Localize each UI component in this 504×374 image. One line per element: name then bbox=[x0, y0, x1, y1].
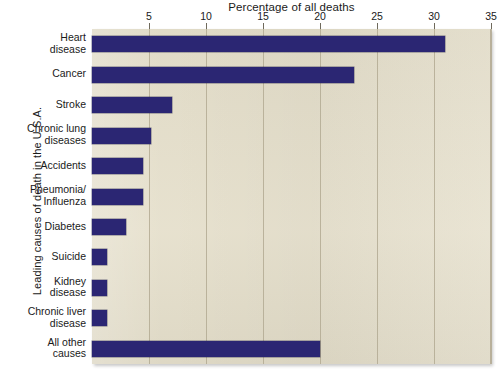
tick-mark-35 bbox=[491, 23, 492, 29]
x-tick-label: 35 bbox=[485, 10, 497, 22]
tick-mark-5 bbox=[149, 23, 150, 29]
plot-area bbox=[92, 29, 491, 364]
category-label: Heart disease bbox=[0, 32, 86, 55]
bar-chart: Percentage of all deaths Leading causes … bbox=[0, 0, 504, 374]
category-label: All other causes bbox=[0, 337, 86, 360]
tick-mark-25 bbox=[377, 23, 378, 29]
x-tick-label: 5 bbox=[146, 10, 152, 22]
category-label: Accidents bbox=[0, 160, 86, 172]
bar bbox=[92, 97, 172, 113]
bar bbox=[92, 219, 126, 235]
bar bbox=[92, 280, 107, 296]
bar bbox=[92, 67, 354, 83]
category-label: Suicide bbox=[0, 251, 86, 263]
category-label: Stroke bbox=[0, 99, 86, 111]
gridline-35 bbox=[491, 29, 492, 364]
bar bbox=[92, 189, 143, 205]
category-label: Kidney disease bbox=[0, 276, 86, 299]
bar bbox=[92, 249, 107, 265]
category-label: Cancer bbox=[0, 68, 86, 80]
gridline-30 bbox=[434, 29, 435, 364]
category-label: Diabetes bbox=[0, 221, 86, 233]
tick-mark-20 bbox=[320, 23, 321, 29]
x-tick-label: 25 bbox=[371, 10, 383, 22]
plot-inner bbox=[92, 29, 490, 364]
category-label: Chronic liver disease bbox=[0, 306, 86, 329]
bar bbox=[92, 128, 151, 144]
category-label: Pneumonia/ Influenza bbox=[0, 184, 86, 207]
category-label: Chronic lung diseases bbox=[0, 123, 86, 146]
tick-mark-30 bbox=[434, 23, 435, 29]
tick-mark-15 bbox=[263, 23, 264, 29]
x-tick-label: 30 bbox=[428, 10, 440, 22]
bar bbox=[92, 158, 143, 174]
x-tick-label: 15 bbox=[257, 10, 269, 22]
x-tick-label: 20 bbox=[314, 10, 326, 22]
x-tick-label: 10 bbox=[200, 10, 212, 22]
tick-mark-10 bbox=[206, 23, 207, 29]
bar bbox=[92, 310, 107, 326]
bar bbox=[92, 341, 320, 357]
gridline-25 bbox=[377, 29, 378, 364]
bar bbox=[92, 36, 445, 52]
